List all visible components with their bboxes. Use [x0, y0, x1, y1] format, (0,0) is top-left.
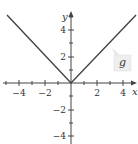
y-axis-label: y [61, 11, 68, 22]
y-tick-label: 2 [60, 52, 66, 62]
graph-of-g: −4 −2 2 4 4 2 −2 −4 x y g [0, 0, 138, 144]
y-axis-arrow-icon [69, 11, 74, 17]
curve-label-callout: g [112, 48, 131, 71]
x-tick-label: 4 [120, 88, 126, 98]
x-tick-label: −4 [12, 88, 26, 98]
x-tick-label: −2 [38, 88, 51, 98]
x-axis-label: x [132, 86, 138, 97]
y-tick-label: −4 [53, 131, 67, 141]
x-axis-arrow-icon [131, 81, 137, 86]
y-tick-label: 4 [60, 25, 66, 35]
x-tick-label: 2 [94, 88, 100, 98]
curve-label-g: g [119, 56, 126, 69]
y-tick-label: −2 [53, 105, 66, 115]
